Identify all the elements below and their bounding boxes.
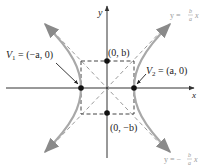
vertex-v2-label: V2 = (a, 0) bbox=[146, 65, 187, 78]
v2-value: = (a, 0) bbox=[156, 65, 188, 77]
v1-pointer bbox=[56, 63, 78, 84]
co-vertex-top-label: (0, b) bbox=[108, 47, 130, 59]
asym-neg-num: b bbox=[188, 152, 191, 158]
left-branch-lower bbox=[45, 88, 81, 152]
asymptote-positive-label: y = b a x bbox=[170, 8, 199, 22]
co-vertex-bottom-point bbox=[104, 110, 110, 116]
vertex-v2-point bbox=[131, 85, 137, 91]
asym-pos-prefix: y = bbox=[170, 11, 181, 20]
asymptote-negative-label: y = − b a x bbox=[164, 152, 198, 166]
right-branch-lower bbox=[134, 88, 170, 152]
asym-pos-suffix: x bbox=[194, 11, 199, 20]
vertex-v1-point bbox=[78, 85, 84, 91]
co-vertex-bottom-label: (0, −b) bbox=[110, 122, 137, 134]
asym-pos-num: b bbox=[189, 8, 192, 14]
asym-neg-suffix: x bbox=[193, 155, 198, 164]
x-axis-label: x bbox=[191, 90, 196, 100]
asym-neg-prefix: y = − bbox=[164, 155, 182, 164]
hyperbola-diagram: y x V1 = (−a, 0) V2 = (a, 0) (0, b) (0, … bbox=[0, 0, 205, 168]
asym-neg-den: a bbox=[188, 160, 191, 166]
vertex-v1-label: V1 = (−a, 0) bbox=[6, 49, 53, 62]
co-vertex-top-point bbox=[104, 58, 110, 64]
y-axis-label: y bbox=[97, 7, 103, 18]
v2-pointer bbox=[137, 74, 146, 84]
asym-pos-den: a bbox=[189, 16, 192, 22]
v1-value: = (−a, 0) bbox=[16, 49, 53, 61]
right-branch-upper bbox=[134, 24, 170, 88]
